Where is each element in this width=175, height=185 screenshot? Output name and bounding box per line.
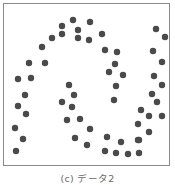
data-point bbox=[99, 31, 105, 37]
data-point bbox=[102, 148, 108, 154]
data-point bbox=[153, 26, 159, 32]
data-point bbox=[112, 61, 118, 67]
data-point bbox=[87, 19, 93, 25]
data-point bbox=[59, 23, 65, 29]
data-point bbox=[159, 82, 165, 88]
data-point bbox=[154, 99, 160, 105]
data-point bbox=[118, 139, 124, 145]
data-point bbox=[39, 44, 45, 50]
data-point bbox=[77, 116, 83, 122]
data-point bbox=[49, 35, 55, 41]
data-point bbox=[42, 60, 48, 66]
data-point bbox=[15, 76, 21, 82]
data-point bbox=[59, 31, 65, 37]
data-point bbox=[125, 151, 131, 157]
data-point bbox=[84, 142, 90, 148]
data-point bbox=[102, 47, 108, 53]
data-point bbox=[75, 27, 81, 33]
data-point bbox=[104, 134, 110, 140]
data-point bbox=[13, 148, 19, 154]
data-point bbox=[159, 113, 165, 119]
scatter-plot bbox=[0, 0, 175, 185]
data-point bbox=[146, 113, 152, 119]
data-point bbox=[28, 75, 34, 81]
data-point bbox=[70, 17, 76, 23]
figure-caption: (c) データ2 bbox=[0, 171, 175, 185]
data-point bbox=[138, 107, 144, 113]
data-point bbox=[106, 69, 112, 75]
data-point bbox=[22, 92, 28, 98]
data-point bbox=[135, 121, 141, 127]
data-point bbox=[159, 59, 165, 65]
data-point bbox=[66, 82, 72, 88]
data-point bbox=[15, 103, 21, 109]
data-point bbox=[151, 73, 157, 79]
data-point bbox=[20, 136, 26, 142]
data-point bbox=[87, 126, 93, 132]
data-point bbox=[149, 91, 155, 97]
data-point bbox=[71, 92, 77, 98]
data-point bbox=[120, 72, 126, 78]
data-point bbox=[146, 129, 152, 135]
data-point bbox=[75, 35, 81, 41]
data-point bbox=[26, 60, 32, 66]
data-point bbox=[136, 150, 142, 156]
data-point bbox=[72, 135, 78, 141]
data-point bbox=[86, 37, 92, 43]
data-point bbox=[136, 137, 142, 143]
data-point bbox=[114, 49, 120, 55]
data-point bbox=[23, 111, 29, 117]
data-point bbox=[113, 83, 119, 89]
data-point bbox=[59, 99, 65, 105]
data-point bbox=[69, 104, 75, 110]
data-point bbox=[150, 48, 156, 54]
data-point bbox=[12, 125, 18, 131]
data-point bbox=[162, 34, 168, 40]
data-point bbox=[113, 150, 119, 156]
data-point bbox=[64, 117, 70, 123]
data-point bbox=[111, 97, 117, 103]
